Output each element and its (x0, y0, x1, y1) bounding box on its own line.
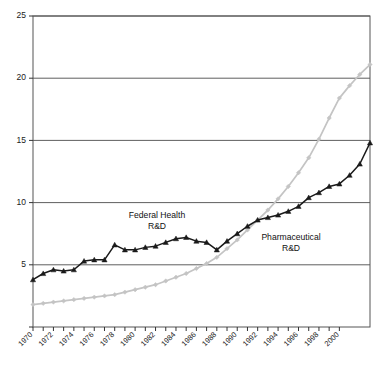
y-tick-label-25: 25 (17, 10, 27, 20)
x-tick-label-1972: 1972 (37, 330, 55, 348)
x-axis: 1970197219741976197819801982198419861988… (16, 327, 341, 348)
chart-container: 510152025 197019721974197619781980198219… (0, 0, 385, 365)
annotation-federal-health-rd: Federal Health (129, 210, 186, 220)
x-tick-label-1974: 1974 (57, 330, 75, 348)
x-tick-label-1984: 1984 (159, 330, 177, 348)
x-tick-label-1992: 1992 (241, 330, 259, 348)
x-tick-label-1990: 1990 (220, 330, 238, 348)
x-tick-label-1970: 1970 (16, 330, 34, 348)
x-tick-label-2000: 2000 (323, 330, 341, 348)
y-tick-label-10: 10 (17, 197, 27, 207)
annotation-pharmaceutical-rd-line2: R&D (282, 243, 300, 253)
y-tick-label-5: 5 (21, 259, 26, 269)
x-tick-label-1986: 1986 (180, 330, 198, 348)
y-tick-label-15: 15 (17, 135, 27, 145)
annotation-federal-health-rd-line2: R&D (148, 221, 166, 231)
x-tick-label-1980: 1980 (118, 330, 136, 348)
x-tick-label-1988: 1988 (200, 330, 218, 348)
annotation-pharmaceutical-rd: Pharmaceutical (261, 232, 320, 242)
x-tick-label-1998: 1998 (302, 330, 320, 348)
line-chart: 510152025 197019721974197619781980198219… (0, 0, 385, 365)
y-tick-label-20: 20 (17, 72, 27, 82)
x-tick-label-1976: 1976 (78, 330, 96, 348)
y-axis: 510152025 (17, 10, 33, 327)
x-tick-label-1996: 1996 (282, 330, 300, 348)
plot-area-background (33, 16, 370, 327)
x-tick-label-1978: 1978 (98, 330, 116, 348)
x-tick-label-1982: 1982 (139, 330, 157, 348)
x-tick-label-1994: 1994 (261, 330, 279, 348)
